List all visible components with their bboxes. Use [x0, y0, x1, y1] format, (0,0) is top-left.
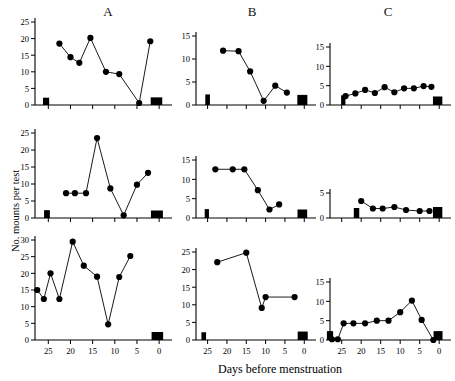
column-title-b: B	[222, 4, 282, 20]
data-point-C-middle-4	[403, 207, 409, 213]
data-point-C-top-4	[382, 84, 388, 90]
y-tick-label-B-top-0: 0	[186, 100, 190, 110]
x-tick-label-B-bottom-5: 5	[283, 346, 287, 356]
menses-bar-A-middle-0	[44, 210, 50, 218]
x-tick-label-C-bottom-0: 0	[437, 346, 441, 356]
data-point-A-middle-2	[83, 190, 89, 196]
data-point-C-bottom-5	[374, 318, 380, 324]
data-point-C-bottom-9	[419, 317, 425, 323]
data-point-C-top-3	[372, 90, 378, 96]
menses-bar-C-middle-1	[433, 207, 442, 218]
menses-bar-C-top-1	[433, 96, 442, 105]
y-tick-label-B-bottom-10: 10	[181, 300, 190, 310]
y-tick-label-A-bottom-15: 15	[20, 285, 29, 295]
y-tick-label-C-bottom-15: 15	[315, 277, 324, 287]
y-tick-label-A-middle-0: 0	[25, 213, 29, 223]
menses-bar-A-top-1	[151, 97, 163, 105]
data-point-A-bottom-3	[56, 296, 62, 302]
data-point-C-bottom-6	[385, 318, 391, 324]
data-point-A-bottom-4	[70, 239, 76, 245]
data-point-B-top-3	[261, 98, 267, 104]
y-tick-label-B-middle-10: 10	[181, 175, 190, 185]
data-point-C-top-6	[401, 85, 407, 91]
y-tick-label-A-middle-15: 15	[20, 162, 29, 172]
data-point-C-bottom-3	[350, 320, 356, 326]
data-point-B-middle-3	[255, 187, 261, 193]
data-point-A-top-1	[67, 54, 73, 60]
y-tick-label-B-middle-15: 15	[181, 155, 190, 165]
y-tick-label-A-bottom-10: 10	[20, 302, 29, 312]
data-point-C-bottom-7	[397, 309, 403, 315]
data-point-B-middle-5	[276, 201, 282, 207]
data-point-C-bottom-8	[409, 297, 415, 303]
y-tick-label-C-top-15: 15	[315, 42, 324, 52]
data-point-A-bottom-2	[47, 270, 53, 276]
y-tick-label-B-top-5: 5	[186, 77, 190, 87]
y-tick-label-A-bottom-20: 20	[20, 269, 29, 279]
x-tick-label-C-bottom-5: 5	[418, 346, 422, 356]
data-point-A-top-6	[136, 100, 142, 106]
data-point-A-top-5	[116, 71, 122, 77]
menses-bar-B-middle-0	[205, 209, 209, 218]
data-point-B-middle-1	[230, 166, 236, 172]
data-point-B-bottom-2	[259, 305, 265, 311]
panel-B-top: 051015	[181, 31, 316, 110]
y-tick-label-B-top-15: 15	[181, 31, 190, 41]
y-tick-label-A-middle-25: 25	[20, 128, 29, 138]
data-point-B-middle-4	[266, 206, 272, 212]
data-point-C-top-1	[352, 90, 358, 96]
x-tick-label-A-bottom-20: 20	[66, 346, 75, 356]
data-point-A-middle-4	[107, 185, 113, 191]
y-tick-label-A-middle-10: 10	[20, 179, 29, 189]
y-tick-label-A-bottom-5: 5	[25, 319, 29, 329]
menses-bar-B-bottom-0	[201, 332, 206, 340]
y-tick-label-C-top-10: 10	[315, 62, 324, 72]
y-tick-label-B-bottom-0: 0	[186, 335, 190, 345]
data-point-C-bottom-10	[430, 337, 436, 343]
menses-bar-A-bottom-0	[152, 332, 164, 340]
y-tick-label-C-top-5: 5	[320, 81, 324, 91]
y-tick-label-B-bottom-20: 20	[181, 265, 190, 275]
data-point-C-top-7	[411, 85, 417, 91]
menses-bar-A-top-0	[43, 98, 49, 105]
data-point-C-middle-1	[370, 205, 376, 211]
data-line-B-bottom	[217, 253, 294, 308]
data-point-A-bottom-1	[41, 296, 47, 302]
data-point-B-bottom-1	[243, 250, 249, 256]
y-tick-label-C-middle-0: 0	[320, 213, 324, 223]
data-point-A-top-0	[56, 40, 62, 46]
panel-B-middle: 051015	[181, 155, 316, 223]
y-tick-label-A-middle-20: 20	[20, 145, 29, 155]
data-point-C-middle-5	[417, 208, 423, 214]
figure-svg: 0510152025051015051015051015202505101505…	[0, 0, 455, 381]
data-point-B-middle-0	[212, 166, 218, 172]
data-point-B-bottom-3	[263, 294, 269, 300]
data-point-A-top-2	[76, 60, 82, 66]
data-point-A-top-7	[147, 38, 153, 44]
data-point-C-bottom-0	[329, 336, 335, 342]
y-axis-label-text: No. mounts per test	[10, 170, 21, 252]
panel-B-bottom: 05101520252520151050	[181, 247, 316, 356]
data-point-C-middle-6	[426, 208, 432, 214]
data-line-B-top	[223, 51, 287, 101]
data-point-B-bottom-4	[292, 294, 298, 300]
data-point-B-top-5	[284, 89, 290, 95]
y-tick-label-B-bottom-15: 15	[181, 283, 190, 293]
y-tick-label-C-bottom-5: 5	[320, 316, 324, 326]
data-point-A-middle-5	[121, 212, 127, 218]
data-point-B-top-4	[272, 83, 278, 89]
data-point-A-middle-1	[72, 190, 78, 196]
data-point-C-middle-2	[380, 205, 386, 211]
panel-C-top: 051015	[315, 42, 451, 110]
y-tick-label-A-top-15: 15	[20, 51, 29, 61]
y-tick-label-A-top-10: 10	[20, 67, 29, 77]
y-tick-label-A-middle-5: 5	[25, 196, 29, 206]
y-axis-label: No. mounts per test	[10, 252, 140, 266]
y-tick-label-B-bottom-5: 5	[186, 318, 190, 328]
x-tick-label-C-bottom-25: 25	[337, 346, 346, 356]
y-tick-label-C-top-0: 0	[320, 100, 324, 110]
data-point-A-middle-3	[94, 135, 100, 141]
panel-C-bottom: 0510152520151050	[315, 277, 451, 356]
x-tick-label-C-bottom-10: 10	[396, 346, 405, 356]
data-point-C-top-0	[343, 93, 349, 99]
